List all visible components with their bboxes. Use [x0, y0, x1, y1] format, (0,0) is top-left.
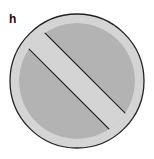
prohibition-sign-icon — [0, 0, 154, 159]
